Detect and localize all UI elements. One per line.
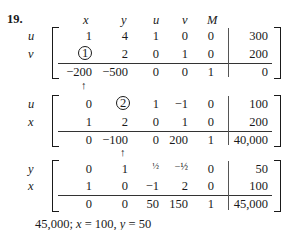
- pivot-column-arrow-icon: ↑: [120, 147, 126, 158]
- row-label: v: [28, 48, 34, 61]
- pivot-column-arrow-icon: ↑: [81, 80, 87, 91]
- row-label: u: [28, 30, 34, 43]
- left-bracket: [52, 95, 59, 147]
- row-label: u: [28, 98, 34, 111]
- col-header-u: u: [153, 14, 159, 27]
- row-label: y: [28, 163, 34, 176]
- right-bracket: [274, 27, 281, 79]
- answer-text: 45,000; x = 100, y = 50: [35, 218, 151, 230]
- pivot-element: 1: [78, 46, 92, 60]
- col-header-y: y: [121, 14, 127, 27]
- right-bracket: [274, 160, 281, 212]
- pivot-element: 2: [116, 96, 130, 110]
- objective-divider: [58, 195, 272, 196]
- col-header-v: v: [182, 14, 188, 27]
- row-label: x: [28, 116, 34, 129]
- right-bracket: [274, 95, 281, 147]
- left-bracket: [52, 160, 59, 212]
- rhs-divider: [228, 28, 229, 77]
- objective-divider: [58, 63, 272, 64]
- objective-divider: [58, 131, 272, 132]
- col-header-x: x: [83, 14, 89, 27]
- problem-number: 19.: [7, 13, 23, 26]
- col-header-m: M: [207, 14, 217, 27]
- row-label: x: [28, 180, 34, 193]
